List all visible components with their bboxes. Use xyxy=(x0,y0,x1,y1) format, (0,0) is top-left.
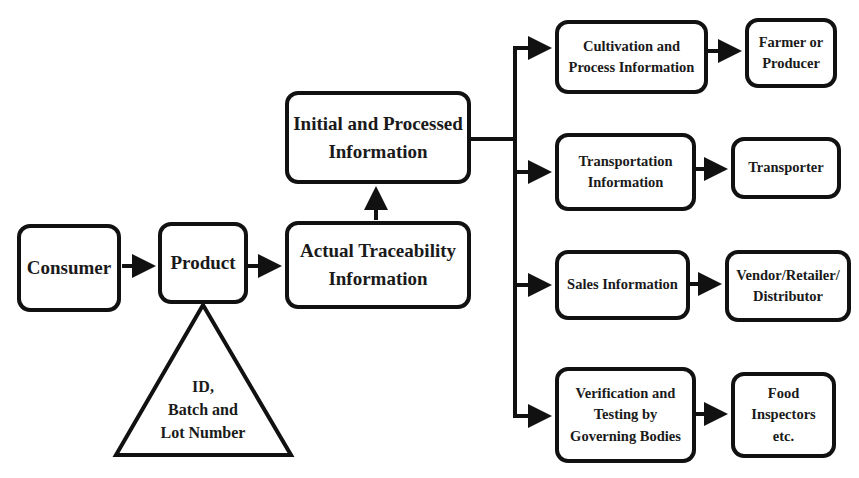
node-farmer-producer: Farmer or Producer xyxy=(745,18,837,88)
node-consumer: Consumer xyxy=(17,224,121,312)
node-food-inspectors: Food Inspectors etc. xyxy=(731,372,836,458)
node-sales: Sales Information xyxy=(555,250,690,320)
node-id-batch-lot: ID, Batch and Lot Number xyxy=(136,375,270,445)
node-initial-processed: Initial and Processed Information xyxy=(285,91,471,184)
node-cultivation: Cultivation and Process Information xyxy=(555,20,708,94)
node-transporter: Transporter xyxy=(731,137,841,199)
node-verification: Verification and Testing by Governing Bo… xyxy=(555,367,696,463)
node-product: Product xyxy=(158,222,248,304)
node-transportation: Transportation Information xyxy=(555,133,696,211)
node-actual-traceability: Actual Traceability Information xyxy=(285,221,471,309)
node-vendor-retailer-distributor: Vendor/Retailer/ Distributor xyxy=(725,250,851,322)
